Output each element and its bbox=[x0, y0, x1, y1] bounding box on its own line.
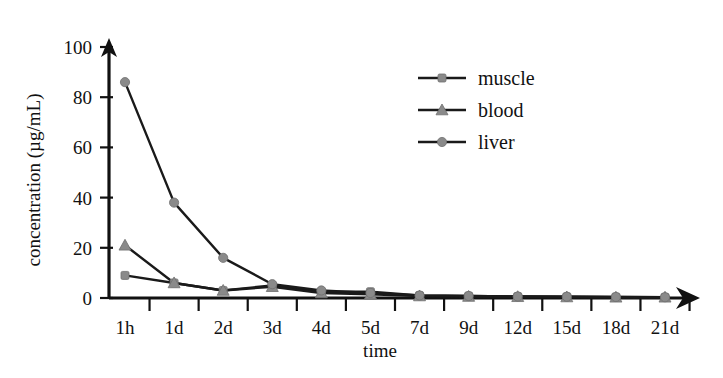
x-tick-label: 4d bbox=[312, 317, 332, 338]
series-markers bbox=[119, 78, 671, 303]
y-axis-ticks bbox=[100, 47, 113, 298]
data-point-liver bbox=[415, 291, 424, 300]
x-tick-label: 21d bbox=[651, 317, 680, 338]
x-tick-label: 7d bbox=[410, 317, 430, 338]
x-tick-label: 1h bbox=[116, 317, 136, 338]
y-tick-label: 40 bbox=[73, 188, 92, 209]
x-tick-label: 2d bbox=[214, 317, 234, 338]
data-point-liver bbox=[611, 292, 620, 301]
data-point-liver bbox=[268, 280, 277, 289]
y-tick-label: 80 bbox=[73, 87, 92, 108]
data-point-muscle bbox=[121, 271, 129, 279]
series-lines bbox=[125, 82, 665, 297]
x-axis-tick-labels: 1h1d2d3d4d5d7d9d12d15d18d21d bbox=[116, 317, 680, 338]
y-tick-label: 60 bbox=[73, 137, 92, 158]
x-tick-label: 12d bbox=[503, 317, 532, 338]
chart-figure: 020406080100 1h1d2d3d4d5d7d9d12d15d18d21… bbox=[0, 0, 723, 378]
x-tick-label: 1d bbox=[165, 317, 185, 338]
data-point-blood bbox=[119, 239, 131, 250]
legend-label-blood: blood bbox=[478, 99, 524, 121]
data-point-liver bbox=[366, 288, 375, 297]
legend-marker-muscle bbox=[438, 74, 446, 82]
data-point-liver bbox=[660, 293, 669, 302]
data-point-liver bbox=[169, 198, 178, 207]
line-chart: 020406080100 1h1d2d3d4d5d7d9d12d15d18d21… bbox=[0, 0, 723, 378]
data-point-liver bbox=[120, 78, 129, 87]
x-tick-label: 18d bbox=[602, 317, 631, 338]
x-tick-label: 3d bbox=[263, 317, 283, 338]
x-tick-label: 9d bbox=[459, 317, 479, 338]
y-axis-tick-labels: 020406080100 bbox=[64, 37, 93, 309]
series-line-liver bbox=[125, 82, 665, 297]
series-line-blood bbox=[125, 245, 665, 297]
y-tick-label: 100 bbox=[64, 37, 93, 58]
legend-label-muscle: muscle bbox=[478, 67, 535, 89]
data-point-liver bbox=[513, 292, 522, 301]
legend-marker-liver bbox=[437, 137, 446, 146]
y-tick-label: 0 bbox=[83, 288, 93, 309]
chart-legend: musclebloodliver bbox=[418, 67, 535, 153]
x-axis-title: time bbox=[363, 340, 397, 361]
y-tick-label: 20 bbox=[73, 238, 92, 259]
data-point-liver bbox=[562, 292, 571, 301]
y-axis-title: concentration (µg/mL) bbox=[23, 94, 45, 267]
data-point-liver bbox=[219, 253, 228, 262]
data-point-liver bbox=[464, 291, 473, 300]
legend-label-liver: liver bbox=[478, 131, 515, 153]
x-tick-label: 15d bbox=[553, 317, 582, 338]
x-tick-label: 5d bbox=[361, 317, 381, 338]
data-point-liver bbox=[317, 286, 326, 295]
